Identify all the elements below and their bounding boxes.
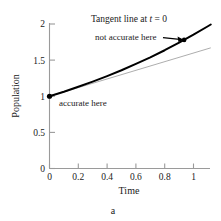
y-tick-label-0: 0 [40, 164, 45, 174]
annotation-accurate-here: accurate here [59, 98, 107, 108]
y-tick-label-2: 2 [40, 19, 45, 29]
y-axis-title: Population [10, 74, 21, 117]
x-tick-label-0: 0 [47, 172, 52, 182]
chart-title-suffix: = 0 [152, 14, 167, 24]
accurate-point-marker [47, 94, 52, 99]
y-tick-label-0-5: 0.5 [33, 128, 45, 138]
x-tick-label-0-6: 0.6 [130, 172, 142, 182]
chart-title: Tangent line at t = 0 [91, 14, 167, 24]
y-tick-label-1: 1 [40, 92, 45, 102]
y-tick-labels: 0 0.5 1 1.5 2 [33, 19, 45, 174]
y-tick-label-1-5: 1.5 [33, 56, 45, 66]
figure-caption: a [111, 205, 116, 216]
x-tick-label-1: 1 [191, 172, 196, 182]
chart-canvas: 0 0.5 1 1.5 2 0 0.2 0.4 0.6 0.8 1 Tange [0, 0, 221, 221]
chart-title-prefix: Tangent line at [91, 14, 150, 24]
x-tick-marks [50, 164, 194, 169]
x-tick-label-0-8: 0.8 [159, 172, 171, 182]
svg-text:Tangent line at t = 0: Tangent line at t = 0 [91, 14, 167, 24]
x-axis-title: Time [119, 185, 140, 196]
x-tick-label-0-2: 0.2 [72, 172, 84, 182]
annotation-not-accurate-here: not accurate here [95, 32, 156, 42]
x-tick-labels: 0 0.2 0.4 0.6 0.8 1 [47, 172, 196, 182]
x-tick-label-0-4: 0.4 [101, 172, 113, 182]
figure-container: 0 0.5 1 1.5 2 0 0.2 0.4 0.6 0.8 1 Tange [0, 0, 221, 221]
axes-group [49, 23, 210, 169]
